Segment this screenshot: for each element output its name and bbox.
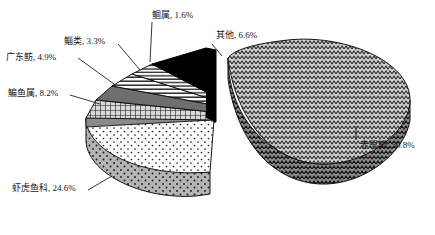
slice-label-xiahuyuke: 虾虎鱼科, 24.6% (12, 183, 76, 194)
slice-label-guangdongfang: 广东鲂, 4.9% (6, 52, 56, 63)
leader-gushu (150, 22, 152, 62)
leader-guangdongfang (78, 58, 114, 84)
slice-label-chiyanzun: 赤眼鳟, 50.8% (360, 140, 415, 151)
slice-label-bianyushu: 鳊鱼属, 8.2% (8, 88, 58, 99)
pie-slice-chiyanzun (228, 39, 410, 184)
slice-label-zilei: 鲻类, 3.3% (64, 36, 105, 47)
leader-bianyushu (70, 95, 100, 104)
leader-zilei (118, 44, 140, 70)
pie-chart-figure: 鲴属, 1.6% 鲻类, 3.3% 广东鲂, 4.9% 鳊鱼属, 8.2% 虾虎… (0, 0, 435, 235)
slice-label-gushu: 鲴属, 1.6% (152, 10, 193, 21)
leader-xiahuyuke (88, 176, 112, 190)
slice-label-qita: 其他, 6.6% (216, 30, 257, 41)
